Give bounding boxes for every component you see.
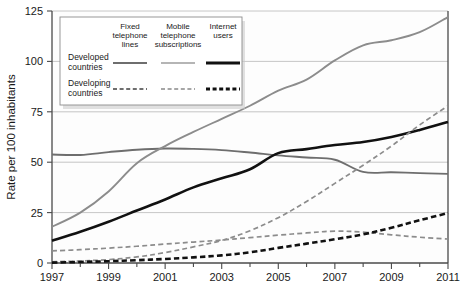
legend-column-header-mobile-telephone-subscriptions: Mobile [166,22,190,31]
legend-column-header-internet-users: users [213,31,233,40]
x-tick-label: 2009 [379,271,403,283]
x-tick-label: 2005 [266,271,290,283]
x-tick-label: 2011 [436,271,460,283]
y-tick-label: 50 [31,156,43,168]
x-tick-label: 2007 [323,271,347,283]
y-tick-label: 0 [37,257,43,269]
y-tick-label: 75 [31,106,43,118]
x-tick-label: 1997 [40,271,64,283]
chart-canvas: 0255075100125 19971999200120032005200720… [0,0,460,286]
y-axis-title: Rate per 100 inhabitants [5,74,17,200]
legend-row-label-developed-countries: countries [68,62,103,72]
legend-column-header-fixed-telephone-lines: Fixed [120,22,140,31]
legend-row-label-developed-countries: Developed [68,52,109,62]
chart-legend: FixedtelephonelinesMobiletelephonesubscr… [60,17,245,109]
line-chart: 0255075100125 19971999200120032005200720… [0,0,460,286]
legend-row-label-developing-countries: Developing [68,78,111,88]
y-axis-title-text: Rate per 100 inhabitants [5,74,17,200]
y-tick-label: 125 [25,5,43,17]
x-tick-label: 1999 [96,271,120,283]
legend-row-label-developing-countries: countries [68,88,103,98]
legend-column-header-mobile-telephone-subscriptions: telephone [160,31,196,40]
legend-column-header-internet-users: Internet [209,22,237,31]
x-tick-label: 2001 [153,271,177,283]
legend-column-header-mobile-telephone-subscriptions: subscriptions [155,40,202,49]
x-tick-label: 2003 [209,271,233,283]
y-tick-label: 25 [31,207,43,219]
y-tick-label: 100 [25,55,43,67]
legend-column-header-fixed-telephone-lines: lines [122,40,138,49]
legend-column-header-fixed-telephone-lines: telephone [112,31,148,40]
